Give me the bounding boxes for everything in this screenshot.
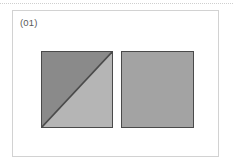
- square-split-diagonal: [41, 51, 113, 128]
- shapes-row: [41, 51, 194, 128]
- square-split-diagonal-graphic: [42, 52, 112, 127]
- top-dotted-rule: [0, 3, 233, 4]
- square-solid-fill: [122, 52, 193, 127]
- panel-label: (01): [20, 17, 38, 29]
- screenshot-root: (01): [0, 0, 233, 167]
- figure-panel: (01): [12, 10, 219, 157]
- square-solid-graphic: [122, 52, 193, 127]
- square-solid: [121, 51, 194, 128]
